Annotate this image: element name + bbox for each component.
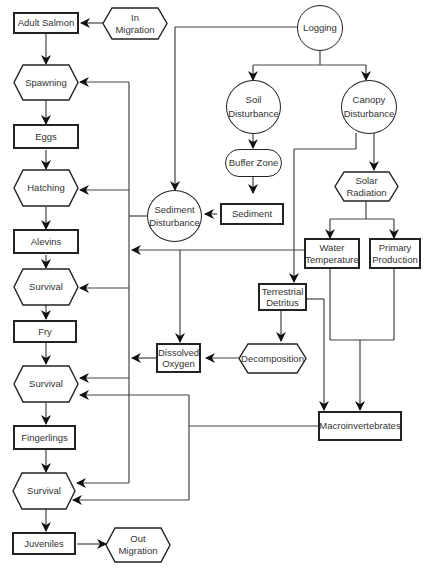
soil-disturbance-label: Soil Disturbance — [228, 93, 279, 121]
sediment-label: Sediment — [232, 208, 272, 220]
in-migration-label: In Migration — [115, 12, 154, 36]
hatching-hexagon: Hatching — [13, 169, 79, 207]
survival-1-hexagon: Survival — [13, 268, 79, 306]
decomposition-label: Decomposition — [241, 353, 304, 365]
spawning-label: Spawning — [25, 77, 67, 89]
macroinvertebrates-label: Macroinvertebrates — [319, 420, 400, 432]
dissolved-oxygen-label: Dissolved Oxygen — [158, 347, 199, 369]
out-migration-label: Out Migration — [118, 533, 157, 557]
sediment-box: Sediment — [220, 203, 284, 225]
out-migration-hexagon: Out Migration — [105, 527, 171, 563]
buffer-zone-rounded-box: Buffer Zone — [225, 149, 282, 177]
in-migration-hexagon: In Migration — [102, 7, 168, 40]
juveniles-box: Juveniles — [12, 532, 76, 555]
eggs-label: Eggs — [35, 131, 57, 143]
survival-3-label: Survival — [27, 485, 61, 497]
alevins-box: Alevins — [13, 229, 79, 254]
macroinvertebrates-box: Macroinvertebrates — [318, 411, 402, 441]
fry-label: Fry — [38, 326, 52, 338]
decomposition-hexagon: Decomposition — [238, 343, 307, 374]
primary-production-box: Primary Production — [369, 238, 421, 269]
fry-box: Fry — [13, 320, 77, 343]
hatching-label: Hatching — [27, 182, 65, 194]
terrestrial-detritus-box: Terrestrial Detritus — [258, 283, 307, 311]
primary-production-label: Primary Production — [372, 242, 417, 266]
solar-radiation-label: Solar Radiation — [346, 175, 386, 199]
fingerlings-box: Fingerlings — [13, 425, 76, 450]
adult-salmon-box: Adult Salmon — [13, 12, 79, 34]
juveniles-label: Juveniles — [24, 538, 64, 550]
survival-2-hexagon: Survival — [13, 365, 79, 403]
logging-circle: Logging — [297, 5, 343, 51]
fingerlings-label: Fingerlings — [21, 432, 67, 444]
solar-radiation-hexagon: Solar Radiation — [334, 171, 399, 202]
terrestrial-detritus-label: Terrestrial Detritus — [262, 286, 304, 308]
sediment-disturbance-label: Sediment Disturbance — [149, 203, 200, 229]
water-temperature-label: Water Temperature — [305, 242, 358, 266]
alevins-label: Alevins — [31, 236, 62, 248]
logging-label: Logging — [303, 22, 337, 34]
survival-2-label: Survival — [29, 378, 63, 390]
dissolved-oxygen-box: Dissolved Oxygen — [156, 343, 201, 373]
sediment-disturbance-circle: Sediment Disturbance — [147, 190, 202, 242]
survival-3-hexagon: Survival — [12, 472, 76, 510]
adult-salmon-label: Adult Salmon — [18, 17, 75, 29]
spawning-hexagon: Spawning — [13, 64, 79, 101]
survival-1-label: Survival — [29, 281, 63, 293]
eggs-box: Eggs — [13, 124, 79, 149]
buffer-zone-label: Buffer Zone — [229, 157, 278, 169]
water-temperature-box: Water Temperature — [304, 238, 360, 269]
canopy-disturbance-label: Canopy Disturbance — [344, 93, 395, 121]
canopy-disturbance-circle: Canopy Disturbance — [341, 80, 397, 134]
soil-disturbance-circle: Soil Disturbance — [226, 80, 281, 134]
